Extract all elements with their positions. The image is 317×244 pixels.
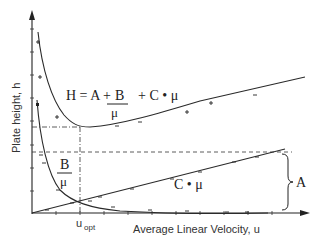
b-term-label: B μ bbox=[57, 157, 72, 189]
h-total-points bbox=[36, 40, 257, 126]
equation-lhs: H = A + bbox=[66, 88, 111, 103]
c-term-line bbox=[32, 149, 285, 213]
svg-text:B: B bbox=[60, 157, 69, 172]
y-axis bbox=[29, 10, 35, 214]
c-term-label: C • μ bbox=[174, 177, 203, 192]
equation-rhs: + C • μ bbox=[138, 88, 178, 103]
equation-label: H = A + + C • μ B μ bbox=[66, 88, 178, 120]
y-axis-title: Plate height, h bbox=[10, 83, 22, 153]
a-term-label: A bbox=[296, 175, 307, 190]
van-deemter-chart: H = A + + C • μ B μ B μ C • μ A u opt Av… bbox=[0, 0, 317, 244]
equation-numerator: B bbox=[115, 88, 124, 103]
h-total-curve bbox=[38, 32, 305, 127]
u-opt-label: u opt bbox=[76, 217, 96, 232]
svg-text:u: u bbox=[76, 217, 82, 229]
b-term-curve bbox=[37, 100, 268, 214]
x-axis-title: Average Linear Velocity, u bbox=[133, 223, 260, 235]
equation-denominator: μ bbox=[111, 105, 118, 120]
svg-text:opt: opt bbox=[84, 223, 96, 232]
a-term-brace bbox=[282, 154, 293, 210]
svg-text:μ: μ bbox=[60, 174, 67, 189]
